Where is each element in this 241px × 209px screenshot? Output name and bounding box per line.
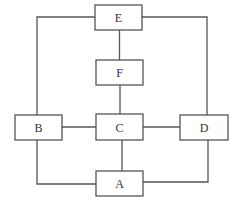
block-diagram: E F B C D A xyxy=(0,0,241,209)
node-c: C xyxy=(96,114,143,140)
node-e-label: E xyxy=(115,11,122,25)
node-e: E xyxy=(95,5,142,30)
node-a-label: A xyxy=(115,177,124,191)
edge-e-d xyxy=(142,17,207,115)
edge-d-a xyxy=(143,140,208,182)
node-d: D xyxy=(180,115,228,140)
node-c-label: C xyxy=(115,121,123,135)
edge-e-b xyxy=(37,17,95,115)
node-a: A xyxy=(96,171,143,196)
edge-b-a xyxy=(37,140,96,184)
node-f: F xyxy=(96,60,143,85)
node-f-label: F xyxy=(116,66,123,80)
node-b-label: B xyxy=(34,121,42,135)
node-b: B xyxy=(15,115,62,140)
node-d-label: D xyxy=(200,121,209,135)
